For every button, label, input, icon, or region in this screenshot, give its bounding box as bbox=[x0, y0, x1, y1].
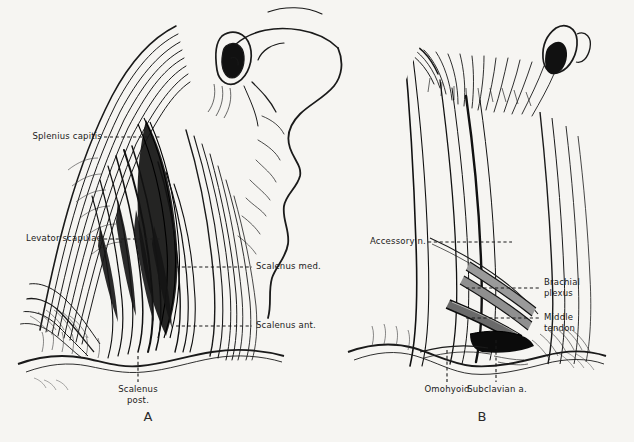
label-accessory-n: Accessory n. bbox=[348, 236, 426, 247]
figure-caption bbox=[0, 434, 634, 442]
label-middle-tendon-line2: tendon bbox=[544, 323, 575, 334]
label-brachial-plexus-line1: Brachial bbox=[544, 277, 580, 288]
figure-container: Splenius capitis Levator scapulae Scalen… bbox=[0, 0, 634, 442]
label-levator-scapulae: Levator scapulae bbox=[0, 233, 102, 244]
leader-lines bbox=[0, 0, 634, 442]
label-scalenus-med: Scalenus med. bbox=[256, 261, 321, 272]
label-scalenus-post: Scalenus post. bbox=[98, 384, 178, 405]
label-middle-tendon-line1: Middle bbox=[544, 312, 575, 323]
label-scalenus-post-line1: Scalenus bbox=[98, 384, 178, 395]
label-splenius-capitis: Splenius capitis bbox=[0, 131, 102, 142]
panel-letter-b: B bbox=[462, 409, 502, 424]
label-scalenus-post-line2: post. bbox=[98, 395, 178, 406]
label-middle-tendon: Middle tendon bbox=[544, 312, 575, 333]
panel-letter-a: A bbox=[128, 409, 168, 424]
label-scalenus-ant: Scalenus ant. bbox=[256, 320, 316, 331]
label-brachial-plexus-line2: plexus bbox=[544, 288, 580, 299]
label-brachial-plexus: Brachial plexus bbox=[544, 277, 580, 298]
label-subclavian-a: Subclavian a. bbox=[452, 384, 542, 395]
